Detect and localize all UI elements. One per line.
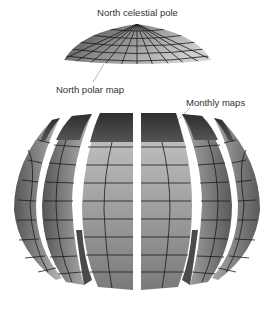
celestial-sphere-diagram xyxy=(0,0,275,313)
polar-map-leader xyxy=(93,64,104,82)
monthly-maps-label: Monthly maps xyxy=(186,97,245,108)
north-polar-cap xyxy=(64,24,211,68)
north-celestial-pole-label: North celestial pole xyxy=(0,7,275,18)
gore-4 xyxy=(141,113,198,290)
gore-3 xyxy=(76,113,133,290)
north-polar-map-label: North polar map xyxy=(56,84,124,95)
